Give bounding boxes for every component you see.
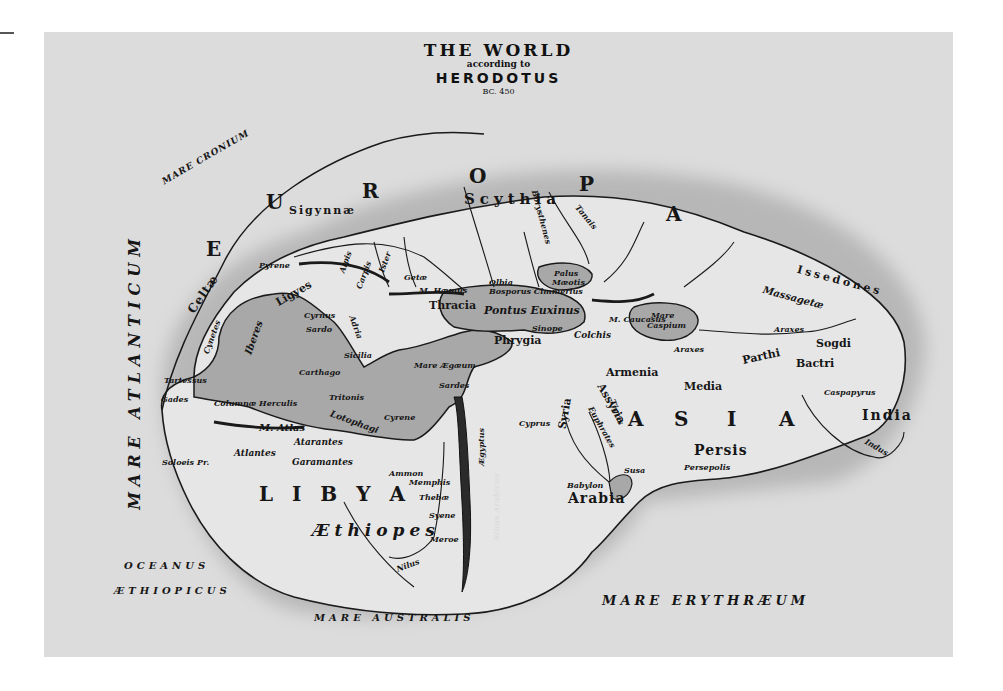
atlantes-label: Atlantes: [234, 448, 276, 458]
sinope-label: Sinope: [532, 323, 563, 333]
mare-erythraeum-label: MARE ERYTHRÆUM: [602, 593, 809, 608]
map-frame: THE WORLD according to HERODOTUS BC. 450…: [44, 32, 953, 657]
syene-label: Syene: [429, 510, 455, 520]
m-atlas-label: M. Atlas: [259, 422, 305, 433]
aegyptus-label: Ægyptus: [476, 428, 486, 466]
pontus-euxinus-label: Pontus Euxinus: [484, 304, 580, 317]
gades-label: Gades: [161, 394, 188, 404]
araxes-north-label: Araxes: [774, 324, 804, 334]
cyrene-label: Cyrene: [384, 412, 415, 422]
ammon-label: Ammon: [389, 468, 423, 478]
carthago-label: Carthago: [299, 367, 340, 377]
babylon-label: Babylon: [567, 480, 603, 490]
garamantes-label: Garamantes: [292, 457, 353, 467]
sinus-arabicus-label: Sinus Arabicus: [491, 473, 501, 540]
getae-label: Getæ: [404, 272, 427, 282]
pyrene-label: Pyrene: [259, 260, 290, 270]
olbia-label: Olbia: [489, 277, 513, 287]
thebae-label: Thebæ: [419, 492, 449, 502]
mare-australis-label: MARE AUSTRALIS: [314, 612, 474, 623]
europa-letter-u: U: [266, 190, 283, 214]
title-line-3: HERODOTUS: [44, 70, 953, 86]
title-line-2: according to: [44, 59, 953, 69]
sogdi-label: Sogdi: [816, 337, 851, 350]
cyprus-label: Cyprus: [519, 418, 550, 428]
phrygia-label: Phrygia: [494, 334, 541, 347]
asia-letter-a2: A: [779, 407, 795, 431]
sigynnae-label: Sigynnæ: [289, 204, 356, 217]
armenia-label: Armenia: [606, 366, 658, 379]
bosporus-label: Bosporus Cimmerius: [489, 286, 583, 296]
atarantes-label: Atarantes: [294, 437, 343, 447]
tartessus-label: Tartessus: [164, 375, 207, 385]
memphis-label: Memphis: [409, 477, 450, 487]
sardo-label: Sardo: [306, 324, 332, 334]
aethiopicus-label: ÆTHIOPICUS: [114, 585, 231, 596]
mare-atlanticum-label: MARE ATLANTICUM: [125, 222, 144, 522]
sardes-label: Sardes: [439, 380, 469, 390]
title-line-4: BC. 450: [44, 87, 953, 96]
map-title: THE WORLD according to HERODOTUS BC. 450: [44, 40, 953, 96]
soloeis-label: Soloeis Pr.: [162, 457, 209, 467]
meroe-label: Meroe: [430, 534, 459, 544]
tritonis-label: Tritonis: [329, 392, 364, 402]
title-line-1: THE WORLD: [44, 40, 953, 60]
asia-letter-a1: A: [628, 407, 644, 431]
asia-letter-i: I: [727, 407, 736, 431]
europa-letter-a: A: [666, 202, 682, 226]
araxes-south-label: Araxes: [674, 344, 704, 354]
m-haemus-label: M. Hæmus: [419, 285, 467, 295]
caspapyrus-label: Caspapyrus: [824, 387, 876, 397]
thracia-label: Thracia: [429, 299, 476, 312]
india-label: India: [862, 407, 913, 423]
arabia-label: Arabia: [568, 490, 626, 506]
cyrnus-label: Cyrnus: [304, 310, 335, 320]
bactri-label: Bactri: [796, 357, 834, 370]
europa-letter-o: O: [469, 164, 486, 188]
europa-letter-p: P: [579, 172, 594, 196]
europa-letter-r: R: [362, 179, 379, 203]
europa-letter-e: E: [206, 237, 221, 261]
aethiopes-label: Æthiopes: [312, 520, 440, 540]
scythia-label: Scythia: [464, 190, 561, 208]
colchis-label: Colchis: [574, 330, 611, 340]
media-label: Media: [684, 380, 722, 393]
columnae-herculis-label: Columnæ Herculis: [214, 398, 297, 408]
oceanus-label: OCEANUS: [124, 560, 209, 571]
caucasus-label: M. Caucasus: [609, 314, 666, 324]
corner-register-mark: [0, 32, 14, 34]
persepolis-label: Persepolis: [684, 462, 730, 472]
asia-letter-s: S: [674, 407, 688, 431]
persis-label: Persis: [694, 442, 748, 458]
susa-label: Susa: [624, 465, 645, 475]
libya-label: L I B Y A: [259, 482, 411, 506]
mare-aegaeum-label: Mare Ægæum: [414, 360, 476, 370]
sicilia-label: Sicilia: [344, 350, 372, 360]
